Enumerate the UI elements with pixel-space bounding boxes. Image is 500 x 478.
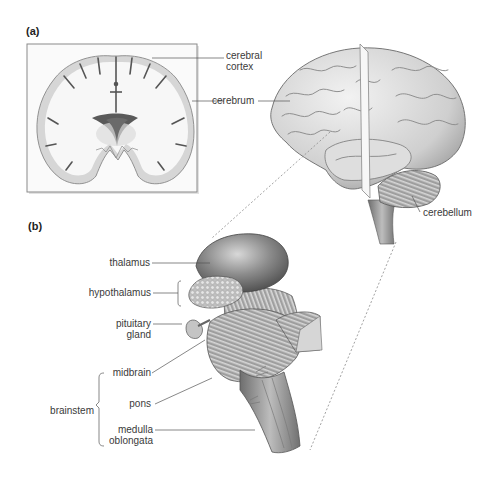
panel-a-label: (a) bbox=[26, 25, 39, 37]
label-cerebrum: cerebrum bbox=[212, 95, 254, 106]
label-medulla-line2: oblongata bbox=[109, 435, 153, 446]
label-cerebral-cortex-line2: cortex bbox=[226, 61, 262, 72]
label-pituitary-line2: gland bbox=[116, 329, 151, 340]
label-cerebral-cortex-line1: cerebral bbox=[226, 50, 262, 61]
coronal-section bbox=[27, 44, 199, 194]
label-pons: pons bbox=[129, 398, 151, 409]
brainstem-detail bbox=[186, 234, 322, 453]
label-brainstem: brainstem bbox=[50, 405, 94, 416]
label-thalamus: thalamus bbox=[109, 257, 150, 268]
label-cerebellum: cerebellum bbox=[423, 207, 472, 218]
label-medulla-oblongata: medulla oblongata bbox=[109, 424, 153, 446]
panel-b-label: (b) bbox=[28, 220, 42, 232]
label-cerebral-cortex: cerebral cortex bbox=[226, 50, 262, 72]
label-pituitary-line1: pituitary bbox=[116, 318, 151, 329]
label-medulla-line1: medulla bbox=[109, 424, 153, 435]
label-pituitary-gland: pituitary gland bbox=[116, 318, 151, 340]
label-midbrain: midbrain bbox=[113, 367, 151, 378]
label-hypothalamus: hypothalamus bbox=[89, 287, 151, 298]
